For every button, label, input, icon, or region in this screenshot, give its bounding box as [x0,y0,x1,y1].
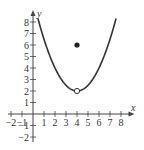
y-axis-arrow-icon [31,10,36,16]
parabola-curve [38,19,116,91]
x-tick-label: 4 [75,117,80,128]
ticks: −2−112345678−2−112345678 [6,17,124,143]
x-tick-label: −2 [6,117,17,128]
y-axis-label: y [36,8,42,19]
x-tick-label: 8 [119,117,124,128]
filled-point [74,42,79,47]
y-tick-label: 2 [24,86,29,97]
y-tick-label: 4 [24,63,29,74]
y-tick-label: 3 [24,74,29,85]
curve [38,19,116,91]
x-tick-label: 7 [108,117,113,128]
x-tick-label: 3 [64,117,69,128]
y-tick-label: 1 [24,97,29,108]
y-tick-label: −1 [18,120,29,131]
y-tick-label: 7 [24,28,29,39]
graph: xy −2−112345678−2−112345678 [0,0,144,150]
x-tick-label: 6 [97,117,102,128]
y-tick-label: 8 [24,17,29,28]
x-tick-label: 1 [42,117,47,128]
x-tick-label: 2 [53,117,58,128]
x-tick-label: 5 [86,117,91,128]
x-axis-label: x [130,102,136,113]
y-tick-label: 5 [24,51,29,62]
points [74,42,79,93]
y-tick-label: 6 [24,40,29,51]
open-point-hole [74,88,79,93]
y-tick-label: −2 [18,132,29,143]
